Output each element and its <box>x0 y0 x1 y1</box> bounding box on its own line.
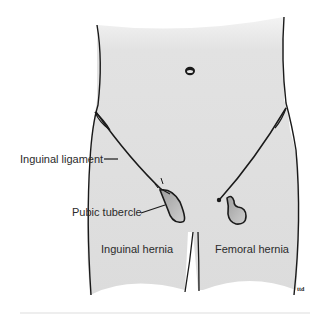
pubic-tubercle-label: Pubic tubercle <box>72 207 142 218</box>
hernia-diagram: Inguinal ligament Pubic tubercle Inguina… <box>0 0 326 315</box>
artist-signature: ttd <box>297 286 304 292</box>
inguinal-ligament-label: Inguinal ligament <box>20 154 103 165</box>
umbilicus-icon <box>185 67 195 75</box>
inguinal-hernia-label: Inguinal hernia <box>101 244 173 255</box>
femoral-hernia-label: Femoral hernia <box>215 244 289 255</box>
